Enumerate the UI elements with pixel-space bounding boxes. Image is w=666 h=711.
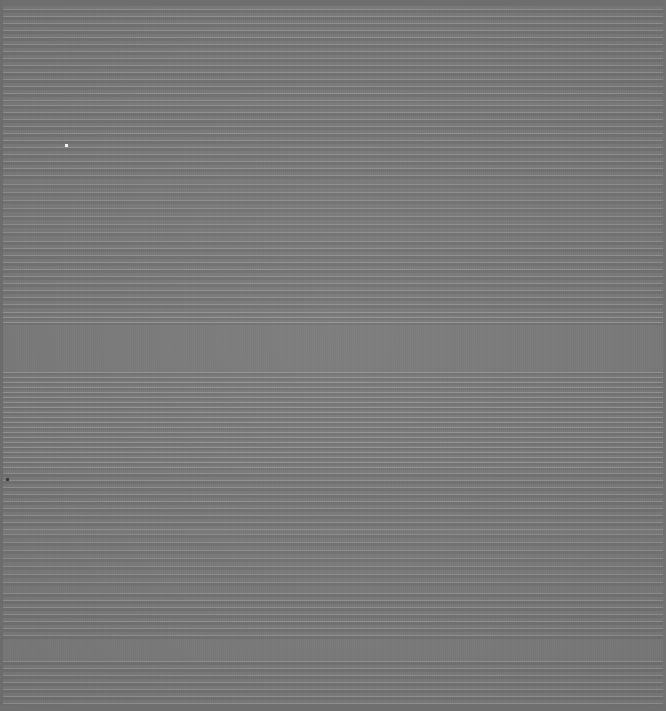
band-gap-lower (0, 640, 666, 658)
white-pixel-artifact (65, 144, 68, 147)
band-lower-fine (0, 470, 666, 530)
band-post-gap (0, 370, 666, 395)
band-gap-upper (0, 325, 666, 370)
band-pre-gap (0, 310, 666, 325)
band-top-fine (0, 6, 666, 102)
band-center-fine (0, 238, 666, 310)
band-lower-wide (0, 530, 666, 590)
bottom-edge-border (0, 705, 666, 711)
band-lower-mid (0, 590, 666, 640)
top-edge-border (0, 0, 666, 6)
band-upper-mid (0, 102, 666, 180)
screen-capture (0, 0, 666, 711)
dark-pixel-artifact (6, 478, 9, 481)
band-upper-wide (0, 180, 666, 238)
band-dense (0, 395, 666, 470)
band-bottom-fine (0, 658, 666, 705)
left-edge-border (0, 0, 3, 711)
